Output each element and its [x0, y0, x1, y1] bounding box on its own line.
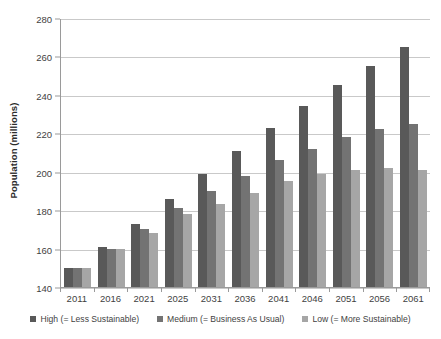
- legend-item-high[interactable]: High (= Less Sustainable): [30, 314, 139, 324]
- bar-low-2011: [82, 268, 91, 287]
- plot-area: [60, 19, 430, 288]
- x-axis-tick-label: 2056: [363, 293, 397, 304]
- bar-group: [195, 19, 229, 287]
- bar-high-2025: [165, 199, 174, 287]
- bar-group: [229, 19, 263, 287]
- x-axis-tick-mark: [329, 288, 330, 292]
- bar-high-2061: [400, 47, 409, 287]
- bar-low-2041: [284, 181, 293, 287]
- bar-group: [396, 19, 430, 287]
- legend-item-label: High (= Less Sustainable): [40, 314, 139, 324]
- bar-medium-2051: [342, 137, 351, 287]
- bar-medium-2025: [174, 208, 183, 287]
- bar-group: [296, 19, 330, 287]
- y-axis-tick-label: 280: [36, 14, 52, 25]
- bar-medium-2036: [241, 176, 250, 287]
- x-axis-tick-mark: [396, 288, 397, 292]
- bar-groups: [61, 19, 430, 287]
- legend-swatch-medium-icon: [157, 316, 163, 322]
- y-axis-tick-label: 140: [36, 283, 52, 294]
- bar-group: [162, 19, 196, 287]
- legend-item-label: Medium (= Business As Usual): [167, 314, 284, 324]
- bar-low-2021: [149, 233, 158, 287]
- y-axis-tick-label: 220: [36, 129, 52, 140]
- bar-medium-2061: [409, 124, 418, 287]
- bar-group: [363, 19, 397, 287]
- x-axis-tick-mark: [363, 288, 364, 292]
- x-axis-tick-mark: [429, 288, 430, 292]
- bar-group: [329, 19, 363, 287]
- bar-high-2041: [266, 128, 275, 287]
- x-axis-tick-label: 2021: [127, 293, 161, 304]
- bar-medium-2016: [107, 249, 116, 287]
- x-axis-tick-mark: [295, 288, 296, 292]
- bar-low-2025: [183, 214, 192, 287]
- bar-medium-2046: [308, 149, 317, 287]
- x-axis-tick-label: 2041: [262, 293, 296, 304]
- bar-high-2036: [232, 151, 241, 287]
- y-axis-tick-label: 260: [36, 52, 52, 63]
- x-axis-tick-label: 2061: [396, 293, 430, 304]
- x-axis-tick-label: 2025: [161, 293, 195, 304]
- y-axis-tick-label: 240: [36, 90, 52, 101]
- bar-high-2056: [366, 66, 375, 287]
- bar-medium-2011: [73, 268, 82, 287]
- bar-group: [262, 19, 296, 287]
- bar-group: [95, 19, 129, 287]
- bar-medium-2021: [140, 229, 149, 287]
- bar-medium-2056: [375, 129, 384, 287]
- y-axis-tick-label: 180: [36, 206, 52, 217]
- x-axis-tick-label: 2046: [295, 293, 329, 304]
- x-axis-tick-mark: [127, 288, 128, 292]
- bar-low-2056: [384, 168, 393, 287]
- bar-high-2031: [198, 174, 207, 287]
- bar-high-2021: [131, 224, 140, 287]
- bar-low-2036: [250, 193, 259, 287]
- legend-item-medium[interactable]: Medium (= Business As Usual): [157, 314, 284, 324]
- legend-swatch-high-icon: [30, 316, 36, 322]
- legend-item-label: Low (= More Sustainable): [312, 314, 410, 324]
- legend-item-low[interactable]: Low (= More Sustainable): [302, 314, 410, 324]
- x-axis-tick-label: 2016: [94, 293, 128, 304]
- bar-low-2016: [116, 249, 125, 287]
- bar-group: [128, 19, 162, 287]
- y-axis-tick-label: 160: [36, 244, 52, 255]
- x-axis-tick-mark: [262, 288, 263, 292]
- bar-low-2051: [351, 170, 360, 287]
- population-projection-bar-chart: Population (millions) 140160180200220240…: [0, 0, 441, 339]
- y-axis-tick-labels: 140160180200220240260280: [0, 19, 60, 288]
- bar-high-2051: [333, 85, 342, 287]
- bar-low-2031: [216, 204, 225, 287]
- bar-group: [61, 19, 95, 287]
- x-axis-tick-mark: [195, 288, 196, 292]
- legend-swatch-low-icon: [302, 316, 308, 322]
- bar-high-2011: [64, 268, 73, 287]
- bar-high-2016: [98, 247, 107, 287]
- y-axis-tick-label: 200: [36, 167, 52, 178]
- x-axis-tick-label: 2011: [60, 293, 94, 304]
- x-axis-tick-mark: [228, 288, 229, 292]
- x-axis-tick-mark: [94, 288, 95, 292]
- x-axis-tick-labels: 2011201620212025203120362041204620512056…: [60, 293, 430, 304]
- bar-medium-2031: [207, 191, 216, 287]
- x-axis-tick-label: 2031: [195, 293, 229, 304]
- bar-low-2061: [418, 170, 427, 287]
- x-axis-tick-mark: [60, 288, 61, 292]
- x-axis-tick-label: 2051: [329, 293, 363, 304]
- chart-legend: High (= Less Sustainable)Medium (= Busin…: [0, 314, 441, 324]
- x-axis-tick-label: 2036: [228, 293, 262, 304]
- x-axis-tick-mark: [161, 288, 162, 292]
- bar-low-2046: [317, 174, 326, 287]
- bar-high-2046: [299, 106, 308, 287]
- bar-medium-2041: [275, 160, 284, 287]
